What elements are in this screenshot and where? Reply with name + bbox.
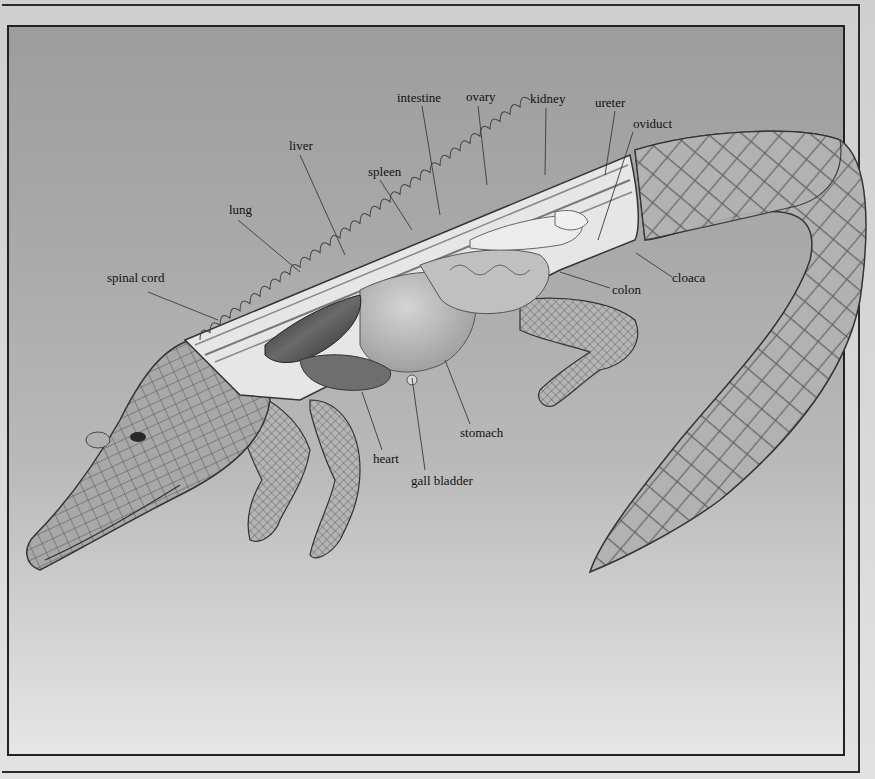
label-colon: colon xyxy=(612,283,641,296)
leader-line-kidney xyxy=(545,108,546,175)
leader-line-spinal-cord xyxy=(148,292,218,320)
label-lung: lung xyxy=(229,203,252,216)
label-kidney: kidney xyxy=(530,92,565,105)
leader-line-stomach xyxy=(445,360,470,424)
eye xyxy=(130,432,146,442)
crocodile-illustration xyxy=(0,0,875,779)
leader-line-liver xyxy=(300,155,345,255)
label-gall-bladder: gall bladder xyxy=(411,474,473,487)
label-spleen: spleen xyxy=(368,165,401,178)
label-ovary: ovary xyxy=(466,90,496,103)
label-intestine: intestine xyxy=(397,91,441,104)
leader-line-lung xyxy=(238,220,300,272)
front-leg-right xyxy=(310,400,360,558)
label-heart: heart xyxy=(373,452,399,465)
leader-line-ovary xyxy=(478,106,487,185)
label-stomach: stomach xyxy=(460,426,503,439)
leader-line-cloaca xyxy=(636,253,672,277)
label-cloaca: cloaca xyxy=(672,271,705,284)
label-liver: liver xyxy=(289,139,313,152)
leader-line-intestine xyxy=(422,106,440,215)
hind-leg xyxy=(520,298,638,406)
leader-line-colon xyxy=(560,272,610,288)
leader-line-heart xyxy=(362,392,382,450)
label-oviduct: oviduct xyxy=(633,117,672,130)
label-ureter: ureter xyxy=(595,96,625,109)
label-spinal-cord: spinal cord xyxy=(107,271,164,284)
page-background: intestine ovary kidney ureter oviduct li… xyxy=(0,0,875,779)
leader-line-spleen xyxy=(380,180,412,230)
leader-line-gall-bladder xyxy=(412,378,425,470)
body-cutaway xyxy=(161,95,638,400)
